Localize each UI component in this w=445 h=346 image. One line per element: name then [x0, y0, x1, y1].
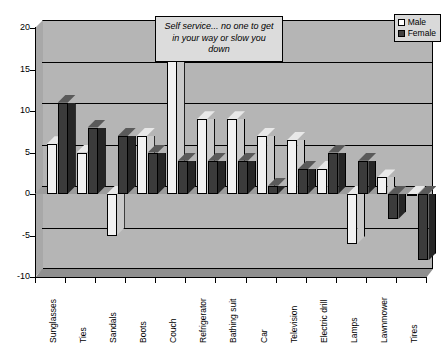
x-tick-mark — [366, 277, 367, 283]
bar-male-12 — [407, 194, 417, 196]
bar-side-face — [398, 194, 406, 219]
x-tick-mark — [396, 277, 397, 283]
bar-side-face — [428, 194, 436, 260]
bar-group — [88, 120, 106, 194]
bar-group — [58, 95, 76, 194]
bar-side-face — [188, 161, 196, 194]
bar-top-face — [287, 132, 305, 140]
bar-side-face — [128, 136, 136, 194]
annotation-callout: Self service... no one to get in your wa… — [155, 16, 283, 62]
bar-top-face — [358, 153, 376, 161]
bar-side-face — [68, 103, 76, 194]
gridline — [42, 228, 433, 229]
bar-group — [418, 186, 436, 260]
x-axis-label: Television — [290, 306, 299, 343]
bar-top-face — [88, 120, 106, 128]
bar-male-5 — [197, 119, 207, 194]
bar-female-1 — [88, 128, 98, 194]
bar-side-face — [308, 169, 316, 194]
bar-male-6 — [227, 119, 237, 194]
bar-side-face — [338, 153, 346, 195]
legend: Male Female — [394, 14, 441, 42]
bar-male-2 — [107, 194, 117, 236]
plot-floor-edge — [35, 277, 426, 278]
x-axis-label: Lawnmower — [380, 297, 389, 343]
bar-female-0 — [58, 103, 68, 194]
bar-male-7 — [257, 136, 267, 194]
legend-item-male: Male — [398, 17, 436, 28]
x-axis-label: Ties — [79, 327, 88, 343]
bar-male-9 — [317, 169, 327, 194]
bar-side-face — [357, 194, 365, 244]
gridline-side — [35, 228, 43, 237]
bar-male-10 — [347, 194, 357, 244]
legend-label-male: Male — [408, 17, 426, 28]
bar-female-8 — [298, 169, 308, 194]
male-swatch-icon — [398, 19, 405, 26]
bar-male-3 — [137, 136, 147, 194]
bar-top-face — [58, 95, 76, 103]
bar-side-face — [248, 161, 256, 194]
bar-group — [148, 145, 166, 195]
bar-group — [298, 161, 316, 194]
bar-top-face — [377, 169, 395, 177]
bar-side-face — [218, 161, 226, 194]
gridline-side — [35, 62, 43, 71]
bar-chart: 20151050-5-10 SunglassesTiesSandalsBoots… — [0, 0, 445, 346]
bar-side-face — [158, 153, 166, 195]
bar-side-face — [117, 194, 125, 236]
bar-male-11 — [377, 177, 387, 194]
bar-female-7 — [268, 186, 278, 194]
annotation-text: Self service... no one to get in your wa… — [164, 21, 273, 54]
bar-group — [208, 153, 226, 194]
bar-group — [388, 186, 406, 219]
bar-top-face — [208, 153, 226, 161]
bar-side-face — [278, 186, 286, 194]
bar-top-face — [328, 145, 346, 153]
bar-top-face — [118, 128, 136, 136]
y-tick-label: 15 — [4, 65, 30, 74]
x-axis-label: Bathing suit — [229, 299, 238, 343]
x-tick-mark — [336, 277, 337, 283]
female-swatch-icon — [398, 30, 405, 37]
x-tick-mark — [35, 277, 36, 283]
x-axis-label: Electric drill — [320, 300, 329, 343]
bar-group — [268, 178, 286, 194]
x-tick-mark — [125, 277, 126, 283]
y-tick-label: -5 — [4, 231, 30, 240]
x-axis-label: Sandals — [109, 312, 118, 343]
bar-group — [238, 153, 256, 194]
gridline — [42, 103, 433, 104]
bar-group — [328, 145, 346, 195]
bar-female-6 — [238, 161, 248, 194]
bar-male-0 — [47, 144, 57, 194]
x-tick-mark — [65, 277, 66, 283]
x-tick-mark — [246, 277, 247, 283]
bar-side-face — [368, 161, 376, 194]
bar-top-face — [257, 128, 275, 136]
bar-top-face — [298, 161, 316, 169]
bar-top-face — [238, 153, 256, 161]
bar-side-face — [98, 128, 106, 194]
y-tick-label: 5 — [4, 148, 30, 157]
x-axis-label: Sunglasses — [49, 299, 58, 343]
bar-group — [118, 128, 136, 194]
bar-female-3 — [148, 153, 158, 195]
bar-group — [347, 186, 365, 244]
bar-group — [178, 153, 196, 194]
x-axis-label: Couch — [169, 318, 178, 343]
x-tick-mark — [276, 277, 277, 283]
y-axis: 20151050-5-10 — [0, 0, 30, 346]
bar-female-5 — [208, 161, 218, 194]
legend-label-female: Female — [408, 28, 436, 39]
bar-female-10 — [358, 161, 368, 194]
bar-top-face — [148, 145, 166, 153]
x-axis-label: Lamps — [350, 317, 359, 343]
bar-male-8 — [287, 140, 297, 194]
bar-female-12 — [418, 194, 428, 260]
x-tick-mark — [95, 277, 96, 283]
y-tick-label: -10 — [4, 272, 30, 281]
x-axis-label: Boots — [139, 321, 148, 343]
x-axis-label: Car — [260, 329, 269, 343]
gridline — [42, 62, 433, 63]
